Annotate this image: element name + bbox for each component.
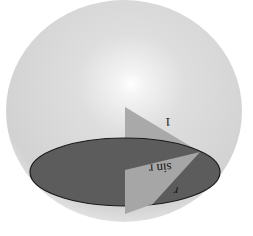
label-angle-r: r (173, 184, 178, 198)
label-sin-r: sin r (148, 160, 173, 177)
sphere-diagram: 1 sin r r (0, 0, 253, 236)
label-hypotenuse: 1 (165, 115, 172, 130)
